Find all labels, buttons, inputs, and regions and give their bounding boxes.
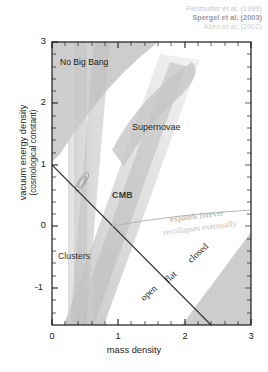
y-tick-neg1: -1	[27, 282, 43, 292]
x-tick-1: 1	[110, 331, 126, 341]
x-tick-3: 3	[243, 331, 259, 341]
cosmology-constraint-plot	[0, 0, 268, 372]
label-clusters: Clusters	[58, 251, 90, 261]
label-cmb: CMB	[112, 190, 133, 200]
y-tick-3: 3	[30, 36, 46, 46]
x-tick-2: 2	[177, 331, 193, 341]
y-axis-label-main: vacuum energy density	[18, 73, 29, 233]
x-tick-0: 0	[44, 331, 60, 341]
x-axis-label: mass density	[0, 345, 268, 355]
region-forbidden-lower-right	[182, 232, 251, 325]
y-axis-label: vacuum energy density (cosmological cons…	[18, 73, 39, 233]
y-axis-label-sub: (cosmological constant)	[29, 73, 39, 233]
label-no-big-bang: No Big Bang	[60, 57, 108, 67]
label-supernovae: Supernovae	[132, 122, 181, 132]
citation-allen: Allen et al. (2002)	[204, 23, 262, 32]
